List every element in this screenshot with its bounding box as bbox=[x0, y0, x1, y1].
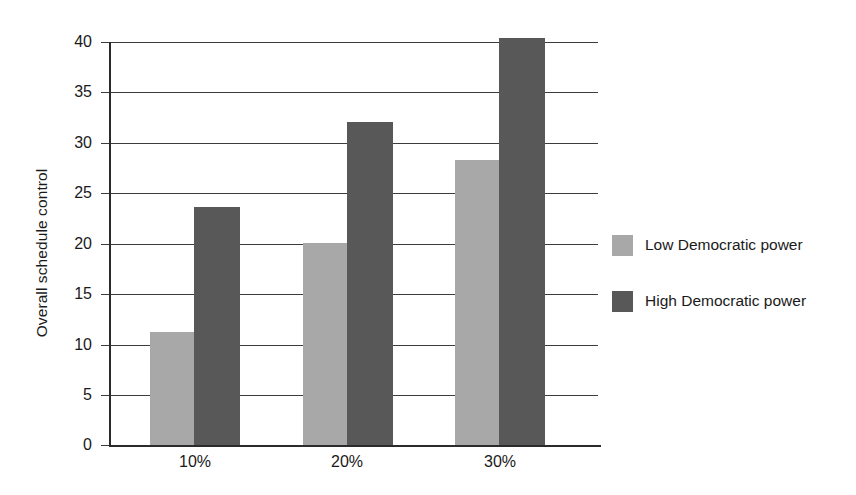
y-axis-tick-labels: 40 35 30 25 20 15 10 5 0 bbox=[40, 0, 92, 495]
x-axis-line bbox=[109, 445, 601, 447]
y-tick-label: 30 bbox=[46, 134, 92, 152]
x-tick-label-20: 20% bbox=[287, 453, 407, 471]
bar-chart: Overall schedule control 40 35 30 25 20 … bbox=[0, 0, 856, 495]
legend-swatch-low-icon bbox=[612, 235, 633, 256]
x-tick-label-30: 30% bbox=[440, 453, 560, 471]
plot-area bbox=[111, 42, 598, 445]
legend-item-high: High Democratic power bbox=[612, 290, 852, 312]
bar-low-20 bbox=[303, 243, 347, 445]
legend: Low Democratic power High Democratic pow… bbox=[612, 234, 852, 346]
bar-low-30 bbox=[455, 160, 499, 445]
x-tick-label-10: 10% bbox=[135, 453, 255, 471]
legend-item-low: Low Democratic power bbox=[612, 234, 852, 256]
bar-low-10 bbox=[150, 332, 194, 445]
bar-high-20 bbox=[347, 122, 393, 445]
y-tick-label: 15 bbox=[46, 285, 92, 303]
y-tick-label: 25 bbox=[46, 184, 92, 202]
y-tick-label: 5 bbox=[46, 386, 92, 404]
y-tick-label: 20 bbox=[46, 235, 92, 253]
y-tick-label: 0 bbox=[46, 436, 92, 454]
bar-high-10 bbox=[194, 207, 240, 445]
legend-label-low: Low Democratic power bbox=[645, 236, 803, 254]
y-tick-label: 35 bbox=[46, 83, 92, 101]
y-tick-label: 10 bbox=[46, 336, 92, 354]
legend-label-high: High Democratic power bbox=[645, 292, 806, 310]
y-tick-label: 40 bbox=[46, 33, 92, 51]
legend-swatch-high-icon bbox=[612, 291, 633, 312]
bar-high-30 bbox=[499, 38, 545, 445]
